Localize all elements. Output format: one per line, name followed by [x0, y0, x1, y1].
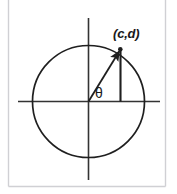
unit-circle-figure: (c,d) θ — [0, 0, 177, 194]
theta-angle-label: θ — [95, 86, 103, 100]
terminal-point-dot — [118, 47, 123, 52]
unit-circle-svg — [0, 0, 177, 194]
radius-vector — [89, 51, 120, 101]
point-coordinate-label: (c,d) — [113, 27, 139, 40]
